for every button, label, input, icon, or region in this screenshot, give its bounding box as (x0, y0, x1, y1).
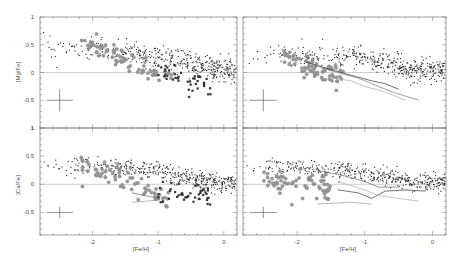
error-bar (47, 89, 73, 111)
panel-bottom-left: 10.50-0.5-2-10 (24, 125, 237, 245)
panel-bottom-right: -2-10 (243, 128, 446, 245)
series-dot (43, 32, 236, 85)
figure: 10.50-0.51 10.50-0.5-2-10 -2-10 [Mg/Fe] … (0, 0, 463, 263)
y-axis-label-ca-fe: [Ca/Fe] (15, 175, 21, 195)
x-tick-label: 0 (222, 239, 226, 245)
model-line (317, 202, 371, 204)
x-axis-label-left: [Fe/H] (133, 246, 150, 252)
x-tick-label: 0 (431, 239, 435, 245)
series-dot (249, 38, 446, 85)
y-tick-label: 1 (31, 14, 35, 20)
y-tick-label: 1 (31, 125, 35, 131)
model-line (132, 200, 158, 202)
model-line (331, 78, 405, 100)
plot-frame (243, 128, 446, 235)
panel-top-left: 10.50-0.51 (24, 14, 237, 131)
x-tick-label: -1 (362, 239, 368, 245)
y-tick-label: -0.5 (24, 209, 35, 215)
y-tick-label: 0 (31, 70, 35, 76)
error-bar (250, 207, 277, 218)
panel-top-right (243, 17, 446, 128)
model-line (338, 190, 426, 199)
error-bar (250, 89, 277, 111)
y-tick-label: 0.5 (26, 153, 35, 159)
x-tick-label: -1 (156, 239, 162, 245)
x-axis-label-right: [Fe/H] (340, 246, 357, 252)
x-tick-label: -2 (294, 239, 300, 245)
y-axis-label-mg-fe: [Mg/Fe] (15, 62, 21, 83)
y-tick-label: 0.5 (26, 42, 35, 48)
y-tick-label: 0 (31, 181, 35, 187)
x-tick-label: -2 (90, 239, 96, 245)
series-grey-circle (262, 168, 332, 207)
y-tick-label: -0.5 (24, 97, 35, 103)
error-bar (47, 207, 73, 218)
